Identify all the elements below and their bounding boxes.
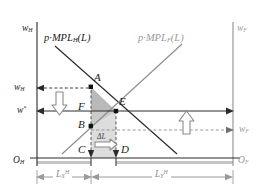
- point-label-c: C: [78, 144, 85, 155]
- foreign-mpl-curve-label: p·MPLF(L): [138, 33, 184, 44]
- point-label-a: A: [94, 72, 101, 83]
- point-dot-e: [114, 109, 118, 113]
- origin-left-label: OH: [13, 156, 24, 166]
- wage-foreign-label: wF: [239, 125, 249, 135]
- home-mpl-curve-label: p·MPLH(L): [44, 33, 90, 44]
- segment-bar-left: [37, 161, 91, 164]
- delta-l-label: ΔL: [97, 133, 106, 141]
- point-label-e: E: [119, 96, 126, 107]
- segment-label-ly-home: LYH: [152, 170, 171, 180]
- wage-star-label: w*: [17, 106, 26, 116]
- measure-arrow-right-end: [225, 174, 233, 180]
- wage-home-label: wH: [14, 83, 25, 93]
- right-axis-label: wF: [237, 24, 247, 34]
- diagram-canvas: [0, 0, 265, 196]
- point-label-d: D: [121, 144, 129, 155]
- foreign-wage-up-arrow-icon: [179, 111, 194, 134]
- point-dot-b: [89, 124, 93, 128]
- point-dot-a: [89, 85, 93, 89]
- segment-bar-right: [116, 161, 233, 164]
- home-wage-down-arrow-icon: [52, 92, 67, 115]
- economics-diagram: wH wF p·MPLH(L) p·MPLF(L) wH w* wF A F E…: [0, 0, 265, 196]
- origin-right-label: OF: [238, 156, 248, 166]
- measure-arrow-right-start: [91, 174, 99, 180]
- point-label-b: B: [78, 119, 85, 130]
- left-axis-label: wH: [22, 24, 33, 34]
- segment-label-lx-home: LXH: [53, 170, 72, 180]
- point-label-f: F: [78, 101, 85, 112]
